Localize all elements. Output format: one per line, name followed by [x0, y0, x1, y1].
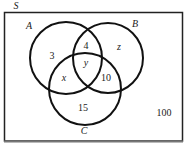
universe-rectangle	[5, 13, 183, 142]
region-b-only: z	[117, 42, 121, 52]
region-b-c-only: 10	[101, 73, 111, 83]
region-outside: 100	[157, 108, 172, 118]
region-a-b-c: y	[84, 58, 88, 68]
set-a-label: A	[26, 21, 32, 31]
set-b-label: B	[132, 19, 138, 29]
region-a-c-only: x	[62, 73, 66, 83]
universe-label: S	[14, 1, 19, 11]
region-c-only: 15	[78, 103, 88, 113]
region-a-b-only: 4	[84, 41, 89, 51]
region-a-only: 3	[50, 51, 55, 61]
venn-diagram: S A B C 3 4 z y x 10 15 100	[0, 0, 184, 144]
set-c-label: C	[81, 126, 88, 136]
